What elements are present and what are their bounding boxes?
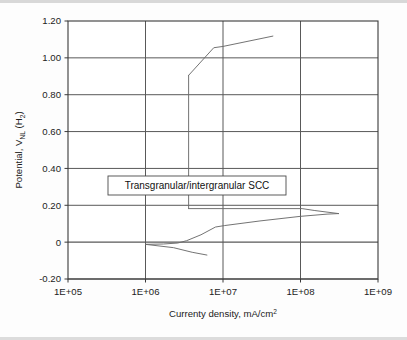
x-axis-tick-labels: 1E+051E+061E+071E+081E+09 [54,279,392,297]
y-tick-label-3: 0.40 [42,163,61,174]
x-tick-label-4: 1E+09 [364,286,392,297]
y-tick-label-1: 0 [56,237,61,248]
annotation-group: Transgranular/intergranular SCC [108,176,286,195]
y-tick-label-7: 1.20 [42,15,61,26]
y-tick-label-2: 0.20 [42,200,61,211]
x-tick-label-0: 1E+05 [54,286,82,297]
y-axis-title: Potential, VNL (H2) [13,111,26,188]
x-tick-label-2: 1E+07 [209,286,237,297]
polarization-curve-chart: -0.2000.200.400.600.801.001.20 1E+051E+0… [0,0,407,340]
y-axis-tick-labels: -0.2000.200.400.600.801.001.20 [39,15,68,284]
y-tick-label-4: 0.60 [42,126,61,137]
y-tick-label-5: 0.80 [42,89,61,100]
chart-figure: -0.2000.200.400.600.801.001.20 1E+051E+0… [0,0,407,340]
y-tick-label-6: 1.00 [42,52,61,63]
x-tick-label-3: 1E+08 [286,286,314,297]
annotation-label: Transgranular/intergranular SCC [125,180,270,191]
x-tick-label-1: 1E+06 [131,286,159,297]
y-tick-label-0: -0.20 [39,273,61,284]
x-axis-title: Currenty density, mA/cm2 [169,308,277,319]
scc-region-label: Transgranular/intergranular SCC [108,176,286,195]
